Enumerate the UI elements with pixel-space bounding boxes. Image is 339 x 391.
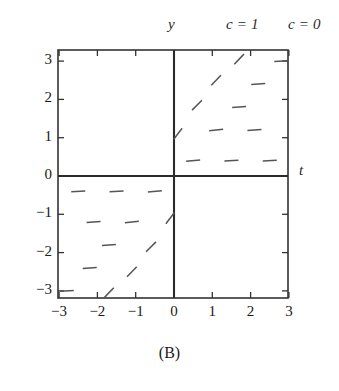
figure-caption: (B) <box>0 344 339 362</box>
slope-segment <box>251 84 265 85</box>
t-axis-label: t <box>299 162 303 179</box>
x-tick-label: −1 <box>121 303 151 320</box>
x-tick-label: −2 <box>82 303 112 320</box>
slope-segment <box>83 267 97 268</box>
slope-segment <box>247 130 261 131</box>
slope-segment <box>186 160 200 161</box>
slope-segment <box>110 191 124 192</box>
slope-segment <box>87 222 101 223</box>
slope-segment <box>146 242 156 252</box>
slope-segment <box>232 107 246 108</box>
coordinate-axes <box>58 50 288 298</box>
slope-segment <box>125 221 139 222</box>
slope-segment <box>234 54 244 64</box>
y-tick-label: −3 <box>24 281 52 298</box>
slope-segment <box>209 129 223 130</box>
slope-segment <box>104 288 114 298</box>
x-tick-label: 3 <box>274 303 304 320</box>
slope-segment <box>71 191 85 192</box>
y-tick-label: 2 <box>24 89 52 106</box>
y-tick-label: 0 <box>24 166 52 183</box>
x-tick-label: 0 <box>159 303 189 320</box>
y-tick-label: 3 <box>24 51 52 68</box>
y-tick-label: −2 <box>24 243 52 260</box>
y-axis-label: y <box>168 16 175 33</box>
x-tick-label: 2 <box>236 303 266 320</box>
slope-segment <box>192 100 202 110</box>
slope-segment <box>263 160 277 161</box>
slope-segment <box>274 61 288 62</box>
annotation-c-equals-1: c = 1 <box>226 16 259 33</box>
y-tick-label: −1 <box>24 204 52 221</box>
slope-segment <box>127 267 137 277</box>
x-tick-label: 1 <box>197 303 227 320</box>
x-tick-label: −3 <box>44 303 74 320</box>
slope-segment <box>60 291 74 292</box>
y-tick-label: 1 <box>24 128 52 145</box>
slope-segment <box>148 191 162 192</box>
annotation-c-equals-0: c = 0 <box>288 16 321 33</box>
slope-segment <box>224 160 238 161</box>
slope-segment <box>102 244 116 245</box>
slope-segment <box>211 75 221 85</box>
